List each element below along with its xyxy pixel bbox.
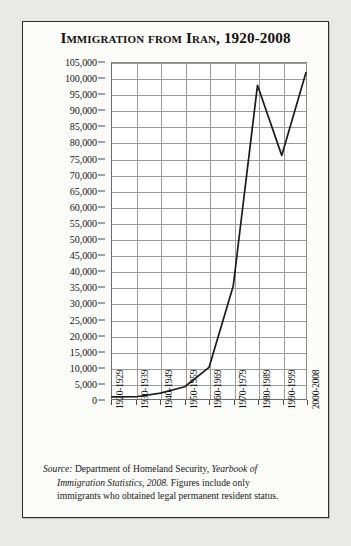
source-line-1-italic: Yearbook of — [211, 463, 257, 474]
y-axis-tick-label: 25,000 — [70, 314, 97, 325]
x-axis-tick-labels: 1920-19291930-19391940-19491950-19591960… — [111, 400, 307, 470]
y-axis-tick-label: 55,000 — [70, 217, 97, 228]
y-axis-tick-mark — [98, 110, 105, 111]
y-axis-tick-label: 30,000 — [70, 298, 97, 309]
y-axis-tick-label: 95,000 — [70, 89, 97, 100]
y-axis-tick-label: 100,000 — [65, 73, 97, 84]
x-axis-tick-mark — [283, 400, 284, 405]
x-axis-tick-mark — [209, 400, 210, 405]
y-axis-tick-mark — [98, 400, 105, 401]
y-axis-tick-mark — [98, 190, 105, 191]
y-axis-tick-mark — [98, 222, 105, 223]
y-axis-tick-label: 15,000 — [70, 346, 97, 357]
y-axis-tick-mark — [98, 239, 105, 240]
y-axis-tick-mark — [98, 174, 105, 175]
y-axis-tick-label: 35,000 — [70, 282, 97, 293]
data-line-series — [112, 63, 306, 398]
x-axis-tick-label: 1980-1989 — [262, 370, 272, 409]
y-axis-tick-label: 40,000 — [70, 266, 97, 277]
source-note: Source: Department of Homeland Security,… — [43, 462, 314, 503]
x-axis-tick-label: 1970-1979 — [238, 370, 248, 409]
y-axis-tick-mark — [98, 62, 105, 63]
y-axis-tick-label: 70,000 — [70, 169, 97, 180]
source-line-1-rest: Department of Homeland Security, — [72, 463, 211, 474]
y-axis-tick-label: 75,000 — [70, 153, 97, 164]
source-line-1: Source: Department of Homeland Security,… — [43, 462, 314, 476]
x-axis-tick-label: 1940-1949 — [164, 370, 174, 409]
y-axis-tick-labels: 05,00010,00015,00020,00025,00030,00035,0… — [25, 62, 105, 400]
source-line-2-italic: Immigration Statistics, 2008. — [57, 477, 168, 488]
y-axis-tick-mark — [98, 319, 105, 320]
y-axis-tick-mark — [98, 367, 105, 368]
y-axis-tick-mark — [98, 158, 105, 159]
y-axis-tick-mark — [98, 287, 105, 288]
y-axis-tick-mark — [98, 255, 105, 256]
source-line-2-rest: Figures include only — [168, 477, 249, 488]
y-axis-tick-label: 85,000 — [70, 121, 97, 132]
source-line-2: Immigration Statistics, 2008. Figures in… — [43, 476, 314, 490]
x-axis-tick-label: 1990-1999 — [287, 370, 297, 409]
y-axis-tick-mark — [98, 94, 105, 95]
y-axis-tick-mark — [98, 126, 105, 127]
x-axis-tick-label: 1950-1959 — [189, 370, 199, 409]
x-axis-tick-mark — [111, 400, 112, 405]
y-axis-tick-mark — [98, 383, 105, 384]
x-axis-tick-mark — [307, 400, 308, 405]
y-axis-tick-label: 105,000 — [65, 57, 97, 68]
y-axis-tick-mark — [98, 351, 105, 352]
y-axis-tick-label: 90,000 — [70, 105, 97, 116]
plot-area: Total immigrants per decade 05,00010,000… — [111, 62, 307, 400]
y-axis-tick-label: 45,000 — [70, 250, 97, 261]
y-axis-tick-label: 65,000 — [70, 185, 97, 196]
figure-page: Immigration from Iran, 1920-2008 Total i… — [0, 0, 351, 546]
x-axis-tick-label: 1960-1969 — [213, 370, 223, 409]
y-axis-tick-mark — [98, 78, 105, 79]
y-axis-tick-mark — [98, 206, 105, 207]
x-axis-tick-mark — [234, 400, 235, 405]
figure-card: Immigration from Iran, 1920-2008 Total i… — [22, 21, 329, 518]
x-axis-tick-label: 1920-1929 — [115, 370, 125, 409]
x-axis-tick-mark — [136, 400, 137, 405]
x-axis-tick-mark — [185, 400, 186, 405]
y-axis-tick-mark — [98, 303, 105, 304]
y-axis-tick-label: 80,000 — [70, 137, 97, 148]
y-axis-tick-label: 10,000 — [70, 362, 97, 373]
y-axis-tick-label: 0 — [92, 395, 97, 406]
plot-frame — [111, 62, 307, 400]
chart-title: Immigration from Iran, 1920-2008 — [23, 29, 328, 47]
x-axis-tick-mark — [160, 400, 161, 405]
x-axis-tick-label: 2000-2008 — [311, 370, 321, 409]
y-axis-tick-label: 20,000 — [70, 330, 97, 341]
y-axis-tick-mark — [98, 142, 105, 143]
y-axis-tick-mark — [98, 271, 105, 272]
y-axis-tick-label: 5,000 — [75, 378, 97, 389]
x-axis-tick-mark — [258, 400, 259, 405]
y-axis-tick-label: 60,000 — [70, 201, 97, 212]
data-line — [112, 73, 306, 397]
source-line-3: immigrants who obtained legal permanent … — [43, 489, 314, 503]
y-axis-tick-label: 50,000 — [70, 234, 97, 245]
source-label: Source: — [43, 463, 72, 474]
y-axis-tick-mark — [98, 335, 105, 336]
x-axis-tick-label: 1930-1939 — [140, 370, 150, 409]
